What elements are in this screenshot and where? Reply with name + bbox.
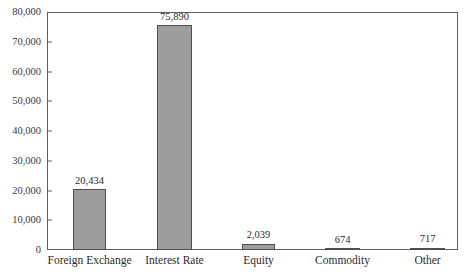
bar-value-label: 2,039 bbox=[247, 230, 271, 241]
y-tick-label: 30,000 bbox=[12, 156, 41, 167]
bar-slot-commodity: 674 bbox=[325, 13, 360, 250]
y-tick-label: 0 bbox=[36, 245, 41, 256]
bar-slot-interest-rate: 75,890 bbox=[157, 13, 192, 250]
bar-slot-other: 717 bbox=[410, 13, 445, 250]
bar-chart: 80,000 70,000 60,000 50,000 40,000 30,00… bbox=[0, 0, 476, 277]
x-axis-labels: Foreign Exchange Interest Rate Equity Co… bbox=[48, 254, 457, 276]
bars-layer: 20,434 75,890 2,039 674 717 bbox=[48, 13, 457, 250]
x-label-interest-rate: Interest Rate bbox=[145, 254, 203, 267]
bar-value-label: 20,434 bbox=[75, 176, 104, 187]
y-tick-label: 20,000 bbox=[12, 185, 41, 196]
x-label-other: Other bbox=[414, 254, 440, 267]
y-tick-label: 40,000 bbox=[12, 126, 41, 137]
y-axis: 80,000 70,000 60,000 50,000 40,000 30,00… bbox=[0, 12, 47, 250]
bar-equity[interactable] bbox=[242, 244, 275, 250]
y-tick-label: 70,000 bbox=[12, 37, 41, 48]
x-label-foreign-exchange: Foreign Exchange bbox=[48, 254, 132, 267]
bar-value-label: 717 bbox=[420, 234, 436, 245]
bar-other[interactable] bbox=[410, 248, 445, 250]
bar-slot-foreign-exchange: 20,434 bbox=[73, 13, 106, 250]
bar-foreign-exchange[interactable] bbox=[73, 189, 106, 250]
bar-value-label: 75,890 bbox=[160, 12, 189, 23]
y-tick-label: 60,000 bbox=[12, 66, 41, 77]
y-tick-label: 80,000 bbox=[12, 7, 41, 18]
x-label-commodity: Commodity bbox=[315, 254, 370, 267]
y-tick-label: 10,000 bbox=[12, 215, 41, 226]
bar-interest-rate[interactable] bbox=[157, 25, 192, 250]
bar-value-label: 674 bbox=[335, 235, 351, 246]
bar-commodity[interactable] bbox=[325, 248, 360, 250]
y-tick-label: 50,000 bbox=[12, 96, 41, 107]
bar-slot-equity: 2,039 bbox=[242, 13, 275, 250]
x-label-equity: Equity bbox=[243, 254, 274, 267]
clipped-title-text bbox=[46, 0, 366, 3]
